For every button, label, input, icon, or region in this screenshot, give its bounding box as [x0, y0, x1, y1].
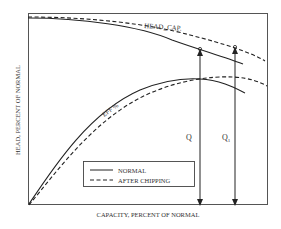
pump-performance-chart: HEAD_CAP. EFF % Q Q1 NORMAL AFTER CHIPPI… — [0, 0, 281, 229]
q1-label: Q1 — [222, 133, 231, 143]
q-marker — [197, 47, 203, 206]
q1-marker — [232, 45, 238, 206]
legend-chipping-label: AFTER CHIPPING — [118, 177, 170, 184]
x-axis-label: CAPACITY, PERCENT OF NORMAL — [97, 211, 200, 218]
q-label: Q — [186, 133, 192, 142]
legend-normal-label: NORMAL — [118, 167, 146, 174]
y-axis-label: HEAD, PERCENT OF NORMAL — [14, 65, 21, 155]
legend: NORMAL AFTER CHIPPING — [84, 162, 195, 187]
head-cap-label: HEAD_CAP. — [144, 22, 182, 33]
